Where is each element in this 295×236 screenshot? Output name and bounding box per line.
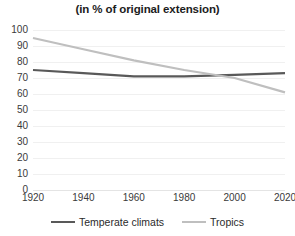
y-axis-tick-label: 20 <box>17 153 28 163</box>
legend-item[interactable]: Tropics <box>182 216 244 228</box>
plot-area <box>33 30 285 190</box>
x-axis-tick-label: 1940 <box>72 192 94 204</box>
y-axis-tick-label: 50 <box>17 105 28 115</box>
y-axis-tick-label: 40 <box>17 121 28 131</box>
x-axis-tick-label: 2020 <box>274 192 295 204</box>
chart-legend: Temperate climatsTropics <box>0 212 295 232</box>
legend-label: Tropics <box>210 216 244 228</box>
axis-baseline <box>33 190 285 191</box>
x-axis-tick-label: 1960 <box>123 192 145 204</box>
line-chart: (in % of original extension) 01020304050… <box>0 0 295 236</box>
y-axis-tick-label: 60 <box>17 89 28 99</box>
y-axis-tick-label: 30 <box>17 137 28 147</box>
legend-line-swatch-icon <box>182 221 206 224</box>
series-container <box>33 30 285 190</box>
x-axis-tick-label: 1980 <box>173 192 195 204</box>
series-line <box>33 38 285 92</box>
y-axis-tick-label: 100 <box>11 25 28 35</box>
y-axis-tick-label: 70 <box>17 73 28 83</box>
y-axis-tick-label: 80 <box>17 57 28 67</box>
x-axis-tick-label: 2000 <box>223 192 245 204</box>
legend-line-swatch-icon <box>51 221 75 224</box>
series-line <box>33 70 285 76</box>
legend-label: Temperate climats <box>79 216 164 228</box>
x-axis: 192019401960198020002020 <box>33 192 285 206</box>
y-axis-tick-label: 90 <box>17 41 28 51</box>
y-axis-tick-label: 10 <box>17 169 28 179</box>
x-axis-tick-label: 1920 <box>22 192 44 204</box>
legend-item[interactable]: Temperate climats <box>51 216 164 228</box>
chart-title: (in % of original extension) <box>0 3 295 15</box>
y-axis: 0102030405060708090100 <box>0 30 28 190</box>
